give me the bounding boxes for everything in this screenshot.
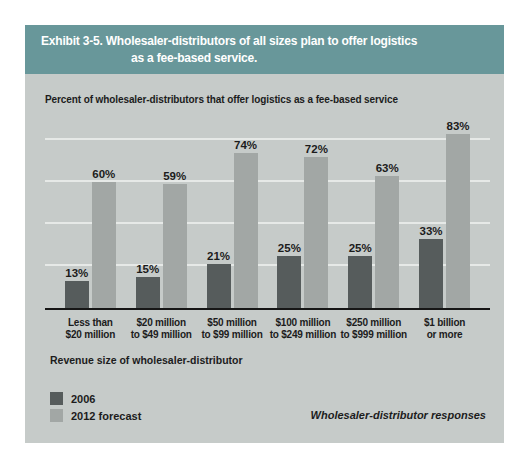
x-axis-label-line: $1 billion bbox=[424, 317, 465, 329]
bar-col-2012-forecast-2: 59% bbox=[163, 170, 187, 308]
legend-swatch-icon bbox=[50, 409, 63, 422]
bar-col-2006-1: 13% bbox=[65, 267, 89, 308]
bar-value-label: 25% bbox=[349, 242, 372, 254]
bar-group-2: 15%59% bbox=[136, 170, 187, 308]
x-axis-label-line: Less than bbox=[68, 317, 113, 329]
bar-value-label: 33% bbox=[420, 225, 443, 237]
bar-group-6: 33%83% bbox=[419, 120, 470, 308]
bar-value-label: 13% bbox=[65, 267, 88, 279]
bar-col-2006-2: 15% bbox=[136, 263, 160, 309]
bar-col-2006-3: 21% bbox=[207, 250, 231, 308]
x-axis-label-line: $50 million bbox=[207, 317, 257, 329]
bar-2012-forecast bbox=[446, 134, 470, 308]
x-axis-title: Revenue size of wholesaler-distributor bbox=[50, 354, 504, 366]
bar-group-1: 13%60% bbox=[65, 168, 116, 308]
exhibit-title-bar: Exhibit 3-5. Wholesaler-distributors of … bbox=[25, 25, 504, 74]
source-note: Wholesaler-distributor responses bbox=[311, 409, 486, 422]
x-axis-labels: Less than$20 million$20 millionto $49 mi… bbox=[45, 317, 490, 341]
bar-chart: 13%60%15%59%21%74%25%72%25%63%33%83% Les… bbox=[45, 113, 490, 341]
exhibit-title-line1: Exhibit 3-5. Wholesaler-distributors of … bbox=[25, 25, 504, 48]
x-axis-label-2: $20 millionto $49 million bbox=[136, 317, 187, 341]
bar-col-2006-5: 25% bbox=[348, 242, 372, 309]
x-axis-label-line: $250 million bbox=[346, 317, 401, 329]
bar-value-label: 72% bbox=[305, 143, 328, 155]
bar-value-label: 83% bbox=[447, 120, 470, 132]
bar-group-5: 25%63% bbox=[348, 162, 399, 308]
bar-2006 bbox=[207, 264, 231, 308]
x-axis-label-1: Less than$20 million bbox=[65, 317, 116, 341]
bar-value-label: 59% bbox=[163, 170, 186, 182]
x-axis-label-line: $20 million bbox=[136, 317, 186, 329]
exhibit-title-line2: as a fee-based service. bbox=[25, 48, 504, 65]
figure-page: { "exhibit": { "title_line1": "Exhibit 3… bbox=[0, 0, 529, 470]
bar-2012-forecast bbox=[234, 153, 258, 308]
bar-value-label: 60% bbox=[92, 168, 115, 180]
bar-col-2012-forecast-6: 83% bbox=[446, 120, 470, 308]
x-axis-label-line: to $49 million bbox=[131, 329, 192, 341]
bar-2006 bbox=[419, 239, 443, 308]
plot-area: 13%60%15%59%21%74%25%72%25%63%33%83% bbox=[45, 113, 490, 308]
x-axis-line bbox=[45, 308, 490, 310]
chart-legend: 20062012 forecast bbox=[50, 392, 141, 422]
bar-value-label: 74% bbox=[234, 139, 257, 151]
legend-item-2006: 2006 bbox=[50, 392, 141, 405]
bar-col-2006-6: 33% bbox=[419, 225, 443, 308]
legend-item-2012-forecast: 2012 forecast bbox=[50, 409, 141, 422]
exhibit-panel: Exhibit 3-5. Wholesaler-distributors of … bbox=[25, 25, 504, 443]
bar-groups: 13%60%15%59%21%74%25%72%25%63%33%83% bbox=[45, 113, 490, 308]
x-axis-label-line: to $249 million bbox=[270, 329, 336, 341]
bar-group-3: 21%74% bbox=[207, 139, 258, 308]
legend-label: 2006 bbox=[71, 393, 95, 405]
bar-2012-forecast bbox=[304, 157, 328, 308]
chart-panel-body: Percent of wholesaler-distributors that … bbox=[25, 74, 504, 443]
x-axis-label-6: $1 billionor more bbox=[419, 317, 470, 341]
bar-2012-forecast bbox=[92, 182, 116, 308]
bar-2006 bbox=[348, 256, 372, 309]
bar-value-label: 25% bbox=[278, 242, 301, 254]
bar-group-4: 25%72% bbox=[277, 143, 328, 308]
bar-col-2012-forecast-5: 63% bbox=[375, 162, 399, 308]
bar-col-2012-forecast-3: 74% bbox=[234, 139, 258, 308]
bar-2012-forecast bbox=[163, 184, 187, 308]
bar-col-2006-4: 25% bbox=[277, 242, 301, 309]
bar-value-label: 63% bbox=[376, 162, 399, 174]
bar-col-2012-forecast-1: 60% bbox=[92, 168, 116, 308]
legend-label: 2012 forecast bbox=[71, 410, 141, 422]
bar-value-label: 21% bbox=[207, 250, 230, 262]
x-axis-label-4: $100 millionto $249 million bbox=[277, 317, 328, 341]
chart-subtitle: Percent of wholesaler-distributors that … bbox=[25, 74, 504, 105]
bar-value-label: 15% bbox=[136, 263, 159, 275]
x-axis-label-line: to $999 million bbox=[340, 329, 406, 341]
x-axis-label-3: $50 millionto $99 million bbox=[207, 317, 258, 341]
chart-footer: 20062012 forecast Wholesaler-distributor… bbox=[50, 392, 486, 422]
legend-swatch-icon bbox=[50, 392, 63, 405]
bar-col-2012-forecast-4: 72% bbox=[304, 143, 328, 308]
bar-2006 bbox=[136, 277, 160, 309]
x-axis-label-5: $250 millionto $999 million bbox=[348, 317, 399, 341]
x-axis-label-line: or more bbox=[427, 329, 463, 341]
x-axis-label-line: $100 million bbox=[275, 317, 330, 329]
x-axis-label-line: $20 million bbox=[66, 329, 116, 341]
bar-2006 bbox=[277, 256, 301, 309]
x-axis-label-line: to $99 million bbox=[201, 329, 262, 341]
bar-2012-forecast bbox=[375, 176, 399, 308]
bar-2006 bbox=[65, 281, 89, 308]
